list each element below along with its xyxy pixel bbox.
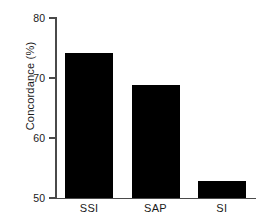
bar-sap — [132, 85, 180, 198]
y-tick-label-70: 70 — [15, 73, 45, 83]
x-tick-label-sap: SAP — [126, 201, 186, 215]
y-axis-label: Concordance (%) — [22, 0, 38, 196]
plot-area — [56, 18, 255, 198]
y-tick-mark-70 — [49, 77, 55, 79]
y-tick-mark-50 — [49, 197, 55, 199]
bar-si — [198, 181, 246, 198]
y-tick-mark-60 — [49, 137, 55, 139]
y-tick-label-80: 80 — [15, 13, 45, 23]
bar-chart-figure: Concordance (%) 50 60 70 80 SSI SAP SI — [0, 0, 271, 220]
y-tick-label-50: 50 — [15, 193, 45, 203]
x-tick-label-ssi: SSI — [59, 201, 119, 215]
x-tick-label-si: SI — [192, 201, 252, 215]
y-tick-label-60: 60 — [15, 133, 45, 143]
bar-ssi — [65, 53, 113, 198]
y-tick-mark-80 — [49, 17, 55, 19]
